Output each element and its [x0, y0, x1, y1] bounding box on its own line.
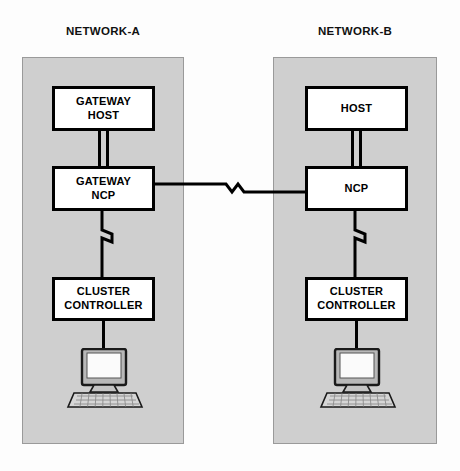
node-gateway-ncp-label-line1: GATEWAY — [76, 175, 131, 189]
node-ncp-label: NCP — [345, 182, 369, 196]
computer-terminal-icon-b — [317, 348, 397, 410]
node-cluster-controller-a-label-line1: CLUSTER — [64, 285, 142, 299]
computer-terminal-icon-a — [64, 348, 144, 410]
connector-a-cluster-terminal — [102, 319, 105, 351]
node-cluster-controller-a-label-line2: CONTROLLER — [64, 299, 142, 313]
connector-a-host-ncp-stroke2 — [106, 129, 109, 168]
node-host[interactable]: HOST — [305, 86, 408, 131]
node-gateway-host-label-line1: GATEWAY — [76, 95, 131, 109]
node-gateway-ncp-label-line2: NCP — [76, 189, 131, 203]
node-ncp[interactable]: NCP — [305, 166, 408, 211]
connector-b-ncp-cluster-zigzag — [337, 208, 377, 282]
connector-a-host-ncp-stroke1 — [98, 129, 101, 168]
node-cluster-controller-a[interactable]: CLUSTER CONTROLLER — [52, 277, 155, 321]
network-diagram-canvas: NETWORK-A GATEWAY HOST GATEWAY NCP CLUST… — [0, 0, 460, 471]
network-a-title: NETWORK-A — [22, 25, 184, 37]
connector-a-ncp-cluster-zigzag — [84, 208, 124, 282]
network-b-title: NETWORK-B — [273, 25, 437, 37]
node-cluster-controller-b-label-line2: CONTROLLER — [317, 299, 395, 313]
node-cluster-controller-b[interactable]: CLUSTER CONTROLLER — [305, 277, 408, 321]
node-gateway-ncp[interactable]: GATEWAY NCP — [52, 166, 155, 211]
connector-b-host-ncp-stroke2 — [359, 129, 362, 168]
node-gateway-host-label-line2: HOST — [76, 109, 131, 123]
node-cluster-controller-b-label-line1: CLUSTER — [317, 285, 395, 299]
connector-network-a-to-network-b-zigzag — [152, 176, 312, 200]
node-host-label: HOST — [341, 102, 372, 116]
connector-b-cluster-terminal — [355, 319, 358, 351]
connector-b-host-ncp-stroke1 — [351, 129, 354, 168]
node-gateway-host[interactable]: GATEWAY HOST — [52, 86, 155, 131]
